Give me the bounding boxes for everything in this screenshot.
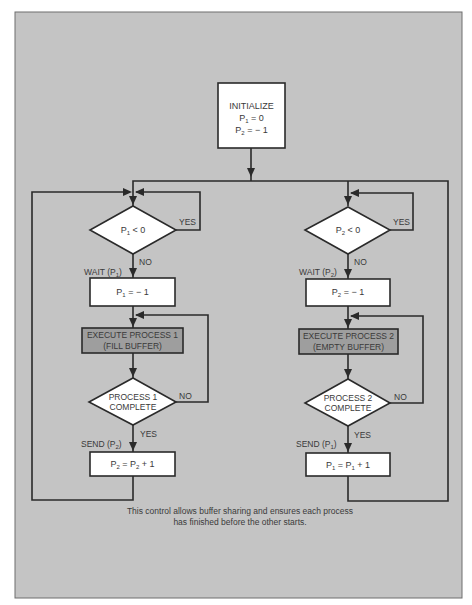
right-increment-p1-node: P1 = P1 + 1 bbox=[306, 453, 390, 476]
svg-text:EXECUTE PROCESS 2: EXECUTE PROCESS 2 bbox=[303, 331, 394, 341]
left-increment-p2-node: P2 = P2 + 1 bbox=[90, 452, 175, 476]
svg-text:P1 < 0: P1 < 0 bbox=[121, 225, 146, 236]
caption-line-1: This control allows buffer sharing and e… bbox=[127, 506, 353, 516]
left-yes2-label: YES bbox=[140, 429, 157, 439]
right-no2-label: NO bbox=[394, 392, 407, 402]
left-assign-p1-node: P1 = − 1 bbox=[90, 278, 175, 306]
flowchart-figure: INITIALIZE P1 = 0 P2 = − 1 P1 < 0 YES NO… bbox=[0, 0, 472, 605]
right-assign-p2-node: P2 = − 1 bbox=[306, 279, 390, 306]
right-yes-label: YES bbox=[393, 217, 410, 227]
svg-text:COMPLETE: COMPLETE bbox=[110, 402, 157, 412]
left-yes-label: YES bbox=[179, 217, 196, 227]
svg-text:PROCESS 2: PROCESS 2 bbox=[324, 393, 373, 403]
right-no-label: NO bbox=[354, 257, 367, 267]
left-no2-label: NO bbox=[179, 391, 192, 401]
caption-line-2: has finished before the other starts. bbox=[173, 517, 306, 527]
svg-text:(EMPTY BUFFER): (EMPTY BUFFER) bbox=[313, 342, 384, 352]
initialize-title: INITIALIZE bbox=[229, 101, 274, 111]
left-no-label: NO bbox=[139, 257, 152, 267]
initialize-p2: P2 = − 1 bbox=[235, 125, 267, 136]
svg-text:P2 < 0: P2 < 0 bbox=[336, 225, 361, 236]
left-execute-process-node: EXECUTE PROCESS 1 (FILL BUFFER) bbox=[82, 328, 183, 353]
svg-text:P1 = − 1: P1 = − 1 bbox=[116, 287, 148, 298]
svg-text:PROCESS 1: PROCESS 1 bbox=[109, 392, 158, 402]
svg-text:COMPLETE: COMPLETE bbox=[325, 403, 372, 413]
svg-text:(FILL BUFFER): (FILL BUFFER) bbox=[103, 341, 162, 351]
svg-text:P2 = − 1: P2 = − 1 bbox=[332, 287, 364, 298]
initialize-p1: P1 = 0 bbox=[239, 113, 264, 124]
initialize-node: INITIALIZE P1 = 0 P2 = − 1 bbox=[218, 83, 285, 148]
right-yes2-label: YES bbox=[354, 430, 371, 440]
svg-text:EXECUTE PROCESS 1: EXECUTE PROCESS 1 bbox=[87, 330, 178, 340]
right-execute-process-node: EXECUTE PROCESS 2 (EMPTY BUFFER) bbox=[299, 329, 398, 354]
